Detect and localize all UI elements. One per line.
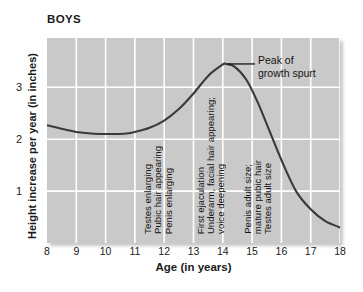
x-axis-tick-18: 18 xyxy=(327,246,353,257)
peak-callout-line2: growth spurt xyxy=(258,67,316,80)
x-axis-tick-17: 17 xyxy=(298,246,324,257)
x-axis-tick-14: 14 xyxy=(210,246,236,257)
peak-callout-line1: Peak of xyxy=(258,54,316,67)
x-axis-tick-10: 10 xyxy=(93,246,119,257)
x-axis-tick-12: 12 xyxy=(151,246,177,257)
x-axis-tick-13: 13 xyxy=(181,246,207,257)
chart-title: BOYS xyxy=(47,13,81,26)
milestone-penis-enlarging: Penis enlarging xyxy=(164,168,174,234)
milestone-pubic-hair-appearing: Pubic hair appearing xyxy=(153,146,163,234)
y-axis-tick-1: 1 xyxy=(2,186,22,197)
milestone-testes-adult-size: Testes adult size xyxy=(263,163,273,234)
x-axis-tick-11: 11 xyxy=(122,246,148,257)
x-axis-title: Age (in years) xyxy=(47,261,340,274)
peak-callout-label: Peak of growth spurt xyxy=(258,54,316,79)
x-axis-tick-9: 9 xyxy=(63,246,89,257)
x-axis-tick-16: 16 xyxy=(268,246,294,257)
growth-spurt-chart-figure: BOYS 123 89101112131415161718 Height inc… xyxy=(0,0,363,292)
y-axis-tick-3: 3 xyxy=(2,82,22,93)
y-axis-title: Height increase per year (in inches) xyxy=(26,36,38,256)
milestone-voice-deepening: voice deepening xyxy=(216,164,226,234)
x-axis-tick-15: 15 xyxy=(239,246,265,257)
y-axis-tick-2: 2 xyxy=(2,134,22,145)
